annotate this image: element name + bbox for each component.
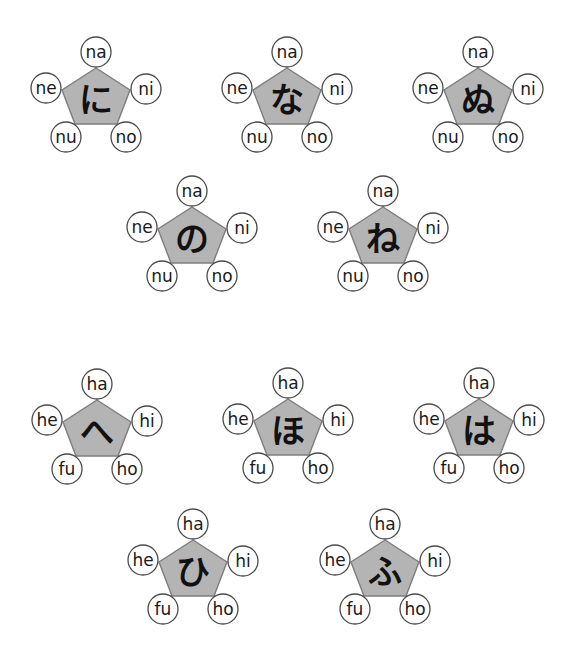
syllable-label: hi — [235, 551, 251, 571]
syllable-label: ho — [212, 599, 233, 619]
syllable-label: he — [36, 410, 57, 430]
syllable-label: ho — [307, 458, 328, 478]
syllable-label: ne — [417, 78, 438, 98]
syllable-label: ne — [35, 78, 56, 98]
kana-character: ひ — [176, 552, 210, 592]
syllable-label: no — [402, 266, 423, 286]
syllable-label: nu — [151, 266, 173, 286]
syllable-label: ni — [329, 79, 345, 99]
kana-group-ne: ねnaneninuno — [318, 176, 448, 291]
syllable-label: ne — [322, 217, 343, 237]
kana-group-fu: ふhahehifuho — [320, 509, 450, 624]
kana-character: へ — [80, 412, 114, 452]
syllable-label: ha — [182, 514, 203, 534]
syllable-label: ho — [116, 459, 137, 479]
kana-group-na: なnaneninuno — [222, 37, 352, 152]
syllable-label: na — [467, 42, 488, 62]
syllable-label: fu — [250, 458, 267, 478]
syllable-label: ni — [138, 79, 154, 99]
kana-character: の — [175, 219, 209, 259]
syllable-label: ni — [234, 218, 250, 238]
kana-pentagon-diagram: にnaneninunoなnaneninunoぬnaneninunoのnaneni… — [0, 0, 575, 649]
kana-character: に — [79, 80, 113, 120]
kana-character: は — [462, 411, 496, 451]
syllable-label: ha — [277, 373, 298, 393]
syllable-label: he — [132, 550, 153, 570]
kana-group-ha: はhahehifuho — [414, 368, 544, 483]
syllable-label: no — [497, 127, 518, 147]
syllable-label: ni — [520, 79, 536, 99]
kana-group-hi: ひhahehifuho — [128, 509, 258, 624]
syllable-label: na — [85, 42, 106, 62]
syllable-label: no — [306, 127, 327, 147]
kana-group-ni: にnaneninuno — [31, 37, 161, 152]
syllable-label: ho — [404, 599, 425, 619]
kana-character: ぬ — [461, 80, 495, 120]
kana-group-ho: ほhahehifuho — [223, 368, 353, 483]
syllable-label: he — [418, 409, 439, 429]
syllable-label: ho — [498, 458, 519, 478]
syllable-label: he — [324, 550, 345, 570]
syllable-label: ne — [226, 78, 247, 98]
syllable-label: nu — [342, 266, 364, 286]
syllable-label: na — [181, 181, 202, 201]
syllable-label: hi — [139, 411, 155, 431]
kana-group-no: のnaneninuno — [127, 176, 257, 291]
kana-character: ふ — [368, 552, 402, 592]
syllable-label: nu — [246, 127, 268, 147]
syllable-label: nu — [55, 127, 77, 147]
syllable-label: ha — [86, 374, 107, 394]
syllable-label: ni — [425, 218, 441, 238]
syllable-label: ha — [468, 373, 489, 393]
syllable-label: na — [372, 181, 393, 201]
syllable-label: hi — [521, 410, 537, 430]
kana-character: な — [270, 80, 304, 120]
syllable-label: fu — [155, 599, 172, 619]
syllable-label: hi — [427, 551, 443, 571]
syllable-label: fu — [441, 458, 458, 478]
syllable-label: ne — [131, 217, 152, 237]
kana-group-he: へhahehifuho — [32, 369, 162, 484]
kana-character: ほ — [271, 411, 305, 451]
syllable-label: fu — [347, 599, 364, 619]
kana-character: ね — [366, 219, 400, 259]
kana-group-nu: ぬnaneninuno — [413, 37, 543, 152]
syllable-label: no — [115, 127, 136, 147]
syllable-label: he — [227, 409, 248, 429]
syllable-label: fu — [59, 459, 76, 479]
syllable-label: nu — [437, 127, 459, 147]
syllable-label: na — [276, 42, 297, 62]
syllable-label: no — [211, 266, 232, 286]
syllable-label: hi — [330, 410, 346, 430]
syllable-label: ha — [374, 514, 395, 534]
